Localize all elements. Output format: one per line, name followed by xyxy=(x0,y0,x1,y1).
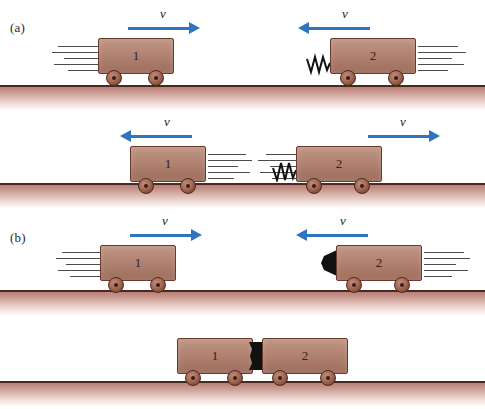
ground-row-1 xyxy=(0,85,485,111)
cart-1: 1 xyxy=(98,38,174,86)
velocity-arrow-left xyxy=(120,128,192,144)
velocity-arrow-left xyxy=(296,227,368,243)
cart-2: 2 xyxy=(296,146,382,194)
speed-lines xyxy=(418,44,466,72)
ground-row-3 xyxy=(0,290,485,316)
speed-lines xyxy=(56,250,100,278)
cart-number: 1 xyxy=(177,338,253,374)
panel-label-b: (b) xyxy=(10,230,26,246)
figure-canvas: (a) v 1 v 2 xyxy=(0,0,485,409)
velocity-arrow-right xyxy=(130,227,202,243)
ground-fill xyxy=(0,383,485,407)
velocity-label: v xyxy=(164,114,170,130)
cart-number: 2 xyxy=(296,146,382,182)
ground-fill xyxy=(0,87,485,111)
cart-2: 2 xyxy=(330,38,416,86)
ground-row-2 xyxy=(0,183,485,209)
cart-number: 2 xyxy=(336,245,422,281)
velocity-label: v xyxy=(400,114,406,130)
cart-2: 2 xyxy=(336,245,422,293)
velocity-label: v xyxy=(342,6,348,22)
cart-number: 2 xyxy=(330,38,416,74)
ground-fill xyxy=(0,185,485,209)
cart-number: 1 xyxy=(98,38,174,74)
panel-label-a: (a) xyxy=(10,20,25,36)
velocity-arrow-left xyxy=(298,20,370,36)
cart-1: 1 xyxy=(100,245,176,293)
cart-1: 1 xyxy=(130,146,206,194)
velocity-arrow-right xyxy=(368,128,440,144)
cart-number: 1 xyxy=(100,245,176,281)
speed-lines xyxy=(208,152,252,180)
cart-number: 2 xyxy=(262,338,348,374)
cart-1: 1 xyxy=(177,338,253,386)
velocity-label: v xyxy=(162,213,168,229)
cart-number: 1 xyxy=(130,146,206,182)
velocity-label: v xyxy=(340,213,346,229)
velocity-label: v xyxy=(160,6,166,22)
velocity-arrow-right xyxy=(128,20,200,36)
ground-fill xyxy=(0,292,485,316)
cart-2: 2 xyxy=(262,338,348,386)
speed-lines xyxy=(52,44,98,72)
spring-bumper-icon xyxy=(306,50,332,76)
spring-bumper-icon xyxy=(272,156,298,182)
speed-lines xyxy=(424,250,470,278)
